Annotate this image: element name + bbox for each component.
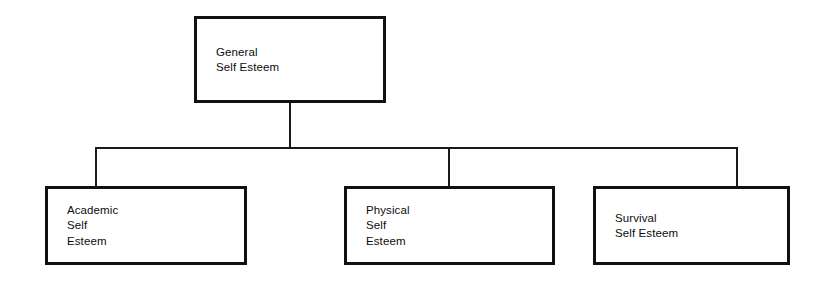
diagram-canvas: General Self Esteem Academic Self Esteem… (0, 0, 827, 286)
node-academic-self-esteem[interactable]: Academic Self Esteem (45, 186, 247, 265)
connector-horizontal-bus (95, 147, 737, 149)
node-survival-self-esteem[interactable]: Survival Self Esteem (593, 186, 790, 265)
node-label-physical-self-esteem: Physical Self Esteem (366, 202, 410, 249)
node-physical-self-esteem[interactable]: Physical Self Esteem (344, 186, 555, 265)
node-label-survival-self-esteem: Survival Self Esteem (615, 210, 678, 241)
node-general-self-esteem[interactable]: General Self Esteem (194, 16, 386, 103)
connector-stem-root (289, 103, 291, 149)
connector-drop-physical (448, 147, 450, 187)
node-label-academic-self-esteem: Academic Self Esteem (67, 202, 118, 249)
connector-drop-survival (736, 147, 738, 187)
node-label-general-self-esteem: General Self Esteem (216, 44, 279, 75)
connector-drop-academic (95, 147, 97, 187)
